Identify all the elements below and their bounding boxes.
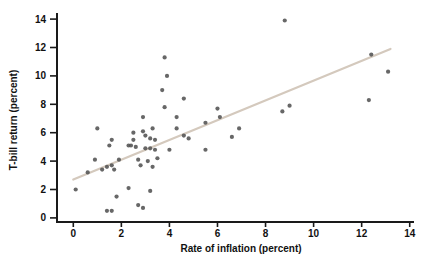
data-point [86, 170, 90, 174]
y-tick-label: 8 [40, 99, 46, 110]
data-point [105, 209, 109, 213]
data-point [160, 88, 164, 92]
y-tick-label: 4 [40, 156, 46, 167]
data-point [175, 126, 179, 130]
data-point [182, 133, 186, 137]
data-point [367, 98, 371, 102]
data-point [126, 186, 130, 190]
data-point [93, 158, 97, 162]
data-point [136, 203, 140, 207]
data-point [143, 133, 147, 137]
data-point [138, 163, 142, 167]
data-point [129, 143, 133, 147]
data-point [163, 105, 167, 109]
data-point [100, 168, 104, 172]
x-tick-label: 4 [167, 228, 173, 239]
data-point [167, 148, 171, 152]
data-point [163, 55, 167, 59]
data-point [112, 168, 116, 172]
data-point [237, 126, 241, 130]
data-point [114, 195, 118, 199]
data-point [203, 148, 207, 152]
data-point [175, 115, 179, 119]
axes-layer: 0246810121402468101214 [35, 13, 416, 239]
data-point [146, 159, 150, 163]
data-points-layer [74, 18, 391, 212]
x-tick-label: 8 [263, 228, 269, 239]
data-point [369, 53, 373, 57]
data-point [148, 189, 152, 193]
y-axis-title: T-bill return (percent) [8, 70, 19, 171]
data-point [280, 109, 284, 113]
data-point [150, 165, 154, 169]
data-point [150, 126, 154, 130]
data-point [141, 206, 145, 210]
data-point [287, 104, 291, 108]
data-point [283, 18, 287, 22]
data-point [131, 131, 135, 135]
x-tick-label: 14 [404, 228, 416, 239]
data-point [105, 165, 109, 169]
y-tick-label: 12 [35, 42, 47, 53]
data-point [215, 106, 219, 110]
scatter-figure: 0246810121402468101214 Rate of inflation… [0, 0, 434, 268]
data-point [141, 129, 145, 133]
data-point [165, 74, 169, 78]
data-point [218, 115, 222, 119]
data-point [136, 158, 140, 162]
data-point [386, 70, 390, 74]
x-tick-label: 0 [71, 228, 77, 239]
data-point [182, 97, 186, 101]
data-point [143, 146, 147, 150]
data-point [117, 158, 121, 162]
x-tick-label: 12 [356, 228, 368, 239]
data-point [110, 209, 114, 213]
x-axis-title: Rate of inflation (percent) [180, 243, 301, 254]
data-point [148, 136, 152, 140]
x-tick-label: 6 [215, 228, 221, 239]
data-point [110, 163, 114, 167]
y-tick-label: 14 [35, 14, 47, 25]
data-point [187, 136, 191, 140]
ticks-layer: 0246810121402468101214 [35, 14, 416, 239]
y-tick-label: 2 [40, 184, 46, 195]
data-point [110, 138, 114, 142]
x-tick-label: 10 [308, 228, 320, 239]
y-tick-label: 6 [40, 127, 46, 138]
data-point [107, 143, 111, 147]
data-point [95, 126, 99, 130]
data-point [155, 156, 159, 160]
data-point [74, 187, 78, 191]
data-point [131, 138, 135, 142]
tbill-inflation-scatter-chart: 0246810121402468101214 Rate of inflation… [0, 0, 434, 268]
data-point [148, 146, 152, 150]
data-point [134, 145, 138, 149]
y-tick-label: 0 [40, 212, 46, 223]
x-tick-label: 2 [119, 228, 125, 239]
y-tick-label: 10 [35, 70, 47, 81]
data-point [203, 121, 207, 125]
data-point [153, 138, 157, 142]
data-point [230, 135, 234, 139]
data-point [153, 148, 157, 152]
data-point [141, 115, 145, 119]
